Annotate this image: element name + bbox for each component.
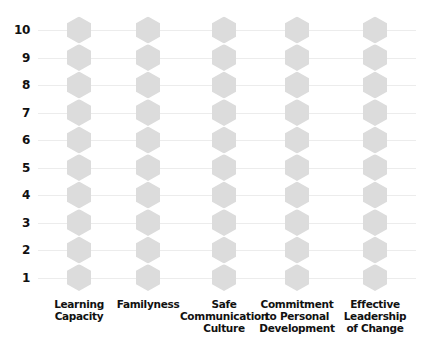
hexagon-marker (67, 237, 91, 264)
hexagon-marker (285, 209, 309, 236)
hexagon-marker (136, 209, 160, 236)
hexagon-marker (212, 182, 236, 209)
x-axis-category-label: Commitmentto PersonalDevelopment (252, 298, 342, 334)
hexagon-marker (67, 209, 91, 236)
hexagon-marker (136, 72, 160, 99)
hexagon-marker (212, 209, 236, 236)
hexagon-rating-chart: 10987654321LearningCapacityFamilynessSaf… (0, 0, 434, 347)
y-axis-tick-label: 7 (0, 106, 30, 120)
hexagon-marker (67, 44, 91, 71)
hexagon-marker (67, 264, 91, 291)
category-label-line: Leadership (330, 310, 420, 322)
hexagon-marker (363, 182, 387, 209)
hexagon-marker (285, 99, 309, 126)
hexagon-marker (67, 99, 91, 126)
hexagon-marker (212, 72, 236, 99)
hexagon-marker (212, 17, 236, 44)
hexagon-marker (363, 127, 387, 154)
hexagon-marker (136, 127, 160, 154)
y-axis-tick-label: 9 (0, 51, 30, 65)
y-axis-tick-label: 6 (0, 133, 30, 147)
hexagon-marker (67, 127, 91, 154)
hexagon-marker (285, 154, 309, 181)
y-axis-tick-label: 3 (0, 216, 30, 230)
category-label-line: Commitment (252, 298, 342, 310)
y-axis-tick-label: 2 (0, 243, 30, 257)
hexagon-marker (67, 182, 91, 209)
hexagon-marker (136, 182, 160, 209)
hexagon-marker (285, 182, 309, 209)
hexagon-marker (212, 264, 236, 291)
hexagon-marker (212, 127, 236, 154)
hexagon-marker (136, 154, 160, 181)
hexagon-marker (136, 17, 160, 44)
hexagon-marker (212, 154, 236, 181)
hexagon-marker (67, 17, 91, 44)
hexagon-marker (136, 264, 160, 291)
hexagon-marker (67, 72, 91, 99)
hexagon-marker (285, 17, 309, 44)
hexagon-marker (285, 127, 309, 154)
category-label-line: Capacity (34, 310, 124, 322)
category-label-line: of Change (330, 322, 420, 334)
hexagon-marker (363, 72, 387, 99)
hexagon-marker (212, 237, 236, 264)
category-label-line: Effective (330, 298, 420, 310)
hexagon-marker (363, 264, 387, 291)
y-axis-tick-label: 10 (0, 23, 30, 37)
y-axis-tick-label: 8 (0, 78, 30, 92)
x-axis-category-label: EffectiveLeadershipof Change (330, 298, 420, 334)
hexagon-marker (67, 154, 91, 181)
hexagon-marker (363, 17, 387, 44)
category-label-line: Development (252, 322, 342, 334)
hexagon-marker (212, 99, 236, 126)
hexagon-marker (363, 154, 387, 181)
hexagon-marker (363, 99, 387, 126)
hexagon-marker (212, 44, 236, 71)
hexagon-marker (363, 209, 387, 236)
hexagon-marker (136, 44, 160, 71)
category-label-line: to Personal (252, 310, 342, 322)
hexagon-marker (136, 237, 160, 264)
hexagon-marker (285, 72, 309, 99)
hexagon-marker (136, 99, 160, 126)
hexagon-marker (285, 44, 309, 71)
y-axis-tick-label: 1 (0, 271, 30, 285)
hexagon-marker (363, 237, 387, 264)
hexagon-marker (363, 44, 387, 71)
hexagon-marker (285, 264, 309, 291)
hexagon-marker (285, 237, 309, 264)
y-axis-tick-label: 5 (0, 161, 30, 175)
y-axis-tick-label: 4 (0, 188, 30, 202)
